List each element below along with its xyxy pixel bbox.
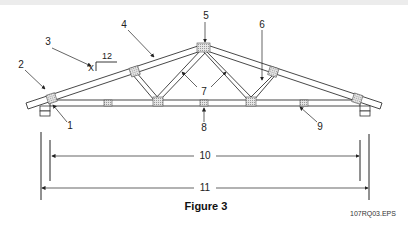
- file-id: 107RQ03.EPS: [350, 210, 396, 217]
- figure-caption: Figure 3: [185, 200, 228, 212]
- truss-diagram: X 12 1 2 3 4 5 6 7 8 9 10 11 Figure 3 10…: [0, 0, 408, 227]
- callout-10: 10: [199, 151, 210, 161]
- splice-plate-3: [300, 100, 308, 106]
- splice-plate-2: [200, 100, 208, 106]
- bearing-blocks: [40, 106, 370, 116]
- right-bottom-plate: [246, 97, 256, 106]
- callout-3: 3: [45, 37, 51, 47]
- left-bottom-plate: [153, 97, 163, 106]
- callout-2: 2: [18, 60, 24, 70]
- splice-plate-1: [104, 100, 112, 106]
- callout-6: 6: [259, 20, 265, 30]
- callout-4: 4: [121, 20, 127, 30]
- callout-1: 1: [67, 121, 73, 131]
- pitch-run-label: 12: [102, 51, 112, 61]
- callout-9: 9: [317, 122, 323, 132]
- callout-8: 8: [201, 123, 207, 133]
- pitch-symbol: [96, 62, 117, 71]
- callout-7: 7: [201, 87, 207, 97]
- pitch-rise-label: X: [88, 63, 94, 73]
- callout-5: 5: [203, 11, 209, 21]
- callout-11: 11: [200, 183, 210, 193]
- peak-plate: [197, 43, 210, 52]
